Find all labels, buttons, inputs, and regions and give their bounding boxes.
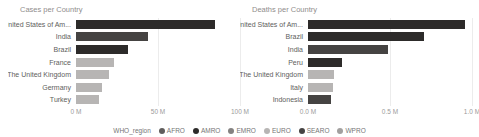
legend-label: AMRO bbox=[201, 127, 221, 134]
who-region-legend: WHO_region AFROAMROEMROEUROSEAROWPRO bbox=[0, 127, 479, 134]
category-label: United States of Am... bbox=[8, 18, 76, 31]
chart-plot-area: United States of Am...IndiaBrazilFranceT… bbox=[8, 18, 240, 106]
bar-row bbox=[308, 18, 472, 31]
legend-label: SEARO bbox=[307, 127, 330, 134]
legend-dot-icon bbox=[299, 128, 305, 134]
legend-label: EURO bbox=[272, 127, 291, 134]
bar-searo[interactable] bbox=[308, 95, 331, 104]
legend-item-searo[interactable]: SEARO bbox=[299, 127, 330, 134]
legend-item-wpro[interactable]: WPRO bbox=[337, 127, 365, 134]
bar-euro[interactable] bbox=[76, 95, 99, 104]
bar-plot bbox=[76, 18, 240, 106]
bar-euro[interactable] bbox=[308, 70, 334, 79]
x-axis-tick-label: 1.0 M bbox=[464, 108, 479, 115]
category-label: Brazil bbox=[8, 43, 76, 56]
bar-row bbox=[76, 43, 240, 56]
category-label: Indonesia bbox=[240, 93, 308, 106]
bar-row bbox=[308, 31, 472, 44]
chart-title: Deaths per Country bbox=[240, 3, 472, 16]
x-axis-tick-label: 0.0 M bbox=[300, 108, 316, 115]
bar-row bbox=[308, 93, 472, 106]
deaths-per-country-chart: Deaths per Country United States of Am..… bbox=[240, 3, 472, 119]
category-label: United States of Am... bbox=[240, 18, 308, 31]
legend-label: WPRO bbox=[345, 127, 365, 134]
legend-dot-icon bbox=[159, 128, 165, 134]
category-label: India bbox=[240, 43, 308, 56]
x-axis-tick-label: 0.5 M bbox=[382, 108, 398, 115]
bar-row bbox=[76, 56, 240, 69]
x-axis-tick-label: 50 M bbox=[151, 108, 165, 115]
value-axis: 0 M50 M100 M bbox=[76, 106, 240, 118]
category-label: Turkey bbox=[8, 93, 76, 106]
chart-plot-area: United States of Am...BrazilIndiaPeruThe… bbox=[240, 18, 472, 106]
bar-row bbox=[76, 81, 240, 94]
category-label: The United Kingdom bbox=[8, 68, 76, 81]
value-axis: 0.0 M0.5 M1.0 M bbox=[308, 106, 472, 118]
legend-item-amro[interactable]: AMRO bbox=[193, 127, 221, 134]
category-label: Germany bbox=[8, 81, 76, 94]
category-axis: United States of Am...BrazilIndiaPeruThe… bbox=[240, 18, 308, 106]
bar-euro[interactable] bbox=[76, 83, 102, 92]
bar-searo[interactable] bbox=[76, 32, 148, 41]
legend-dot-icon bbox=[193, 128, 199, 134]
legend-dot-icon bbox=[337, 128, 343, 134]
category-label: Brazil bbox=[240, 31, 308, 44]
bar-row bbox=[76, 93, 240, 106]
bar-row bbox=[308, 43, 472, 56]
bar-row bbox=[76, 18, 240, 31]
legend-dot-icon bbox=[228, 128, 234, 134]
bar-plot bbox=[308, 18, 472, 106]
bar-row bbox=[308, 56, 472, 69]
bar-row bbox=[308, 68, 472, 81]
bar-euro[interactable] bbox=[76, 70, 109, 79]
legend-label: EMRO bbox=[236, 127, 256, 134]
legend-label: AFRO bbox=[167, 127, 185, 134]
category-label: India bbox=[8, 31, 76, 44]
category-label: France bbox=[8, 56, 76, 69]
bar-amro[interactable] bbox=[308, 20, 465, 29]
legend-dot-icon bbox=[264, 128, 270, 134]
category-label: Peru bbox=[240, 56, 308, 69]
bar-euro[interactable] bbox=[308, 83, 333, 92]
bar-row bbox=[76, 31, 240, 44]
bar-amro[interactable] bbox=[308, 58, 342, 67]
bar-amro[interactable] bbox=[76, 45, 128, 54]
legend-item-afro[interactable]: AFRO bbox=[159, 127, 185, 134]
legend-item-euro[interactable]: EURO bbox=[264, 127, 291, 134]
bar-amro[interactable] bbox=[308, 32, 424, 41]
chart-title: Cases per Country bbox=[8, 3, 240, 16]
bar-amro[interactable] bbox=[76, 20, 215, 29]
legend-item-emro[interactable]: EMRO bbox=[228, 127, 256, 134]
legend-title: WHO_region bbox=[113, 127, 151, 134]
category-label: Italy bbox=[240, 81, 308, 94]
bar-row bbox=[76, 68, 240, 81]
bar-searo[interactable] bbox=[308, 45, 388, 54]
category-axis: United States of Am...IndiaBrazilFranceT… bbox=[8, 18, 76, 106]
bar-row bbox=[308, 81, 472, 94]
gridline bbox=[472, 18, 473, 106]
bar-euro[interactable] bbox=[76, 58, 114, 67]
category-label: The United Kingdom bbox=[240, 68, 308, 81]
x-axis-tick-label: 0 M bbox=[71, 108, 82, 115]
cases-per-country-chart: Cases per Country United States of Am...… bbox=[8, 3, 240, 119]
report-canvas: Cases per Country United States of Am...… bbox=[0, 0, 479, 137]
